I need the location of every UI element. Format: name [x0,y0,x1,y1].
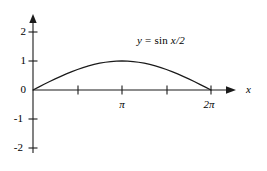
overlay-canvas [0,0,267,171]
curve-equation-label: y = sin x/2 [137,35,185,46]
white-wash [0,0,267,171]
x-axis-name-label: x [246,84,251,95]
sine-curve-figure: 2 1 0 -1 -2 π 2π x y = sin x/2 [0,0,267,171]
y-tick-label-minus-1: -1 [5,113,23,124]
equation-function: sin [154,34,167,46]
y-tick-label-1: 1 [8,55,26,66]
x-tick-label-pi: π [109,99,135,110]
y-tick-label-2: 2 [8,26,26,37]
y-tick-label-0: 0 [8,84,26,95]
y-tick-label-minus-2: -2 [5,142,23,153]
equation-equals: = [145,34,151,46]
x-tick-label-two-pi: 2π [196,99,222,110]
equation-argument: x/2 [171,34,185,46]
